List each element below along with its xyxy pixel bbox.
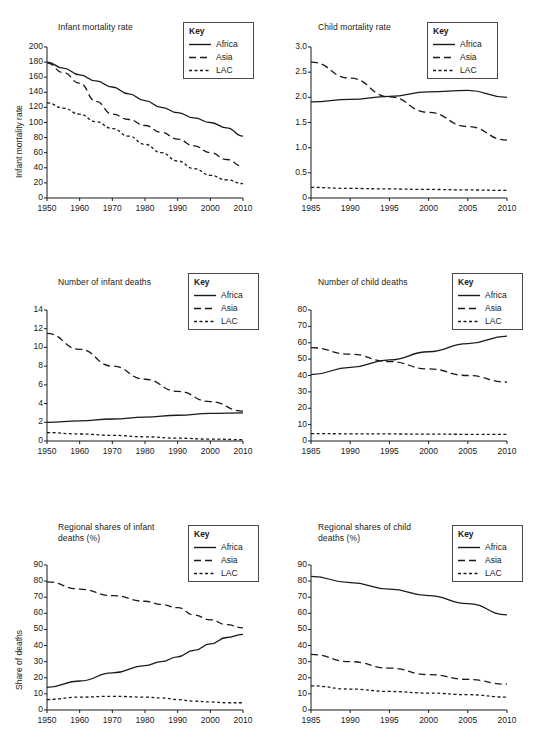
six-panel-line-chart-figure: Infant mortality rateInfant mortality ra… <box>0 0 537 744</box>
y-tick-label: 80 <box>265 575 307 585</box>
y-tick-label: 10 <box>265 688 307 698</box>
chart-panel-regional-shares-of-child-deaths: Regional shares of child deaths (%)01020… <box>0 0 537 744</box>
y-tick-label: 70 <box>265 591 307 601</box>
axis-spines <box>311 565 507 710</box>
y-tick-label: 90 <box>265 559 307 569</box>
legend-line-swatch-solid <box>458 544 480 551</box>
x-tick-label: 2010 <box>487 715 527 725</box>
y-tick-label: 30 <box>265 656 307 666</box>
x-tick-label: 2005 <box>448 715 488 725</box>
y-tick-label: 20 <box>265 672 307 682</box>
legend-item-label: LAC <box>485 568 502 578</box>
legend-line-swatch-dotted <box>458 570 480 577</box>
x-tick-label: 1995 <box>369 715 409 725</box>
x-tick-label: 1990 <box>330 715 370 725</box>
legend-title: Key <box>458 529 474 539</box>
y-tick-label: 0 <box>265 704 307 714</box>
y-tick-label: 50 <box>265 623 307 633</box>
legend-item-asia[interactable]: Asia <box>458 555 502 565</box>
legend-line-swatch-dashed <box>458 557 480 564</box>
chart-title: Regional shares of child deaths (%) <box>318 522 448 544</box>
series-line-lac <box>311 686 507 697</box>
legend-item-label: Asia <box>485 555 502 565</box>
legend-item-africa[interactable]: Africa <box>458 542 507 552</box>
series-line-asia <box>311 654 507 684</box>
x-tick-label: 1985 <box>291 715 331 725</box>
legend-item-label: Africa <box>485 542 507 552</box>
x-tick-label: 2000 <box>409 715 449 725</box>
series-line-africa <box>311 576 507 615</box>
legend-item-lac[interactable]: LAC <box>458 568 502 578</box>
y-tick-label: 60 <box>265 607 307 617</box>
y-tick-label: 40 <box>265 640 307 650</box>
